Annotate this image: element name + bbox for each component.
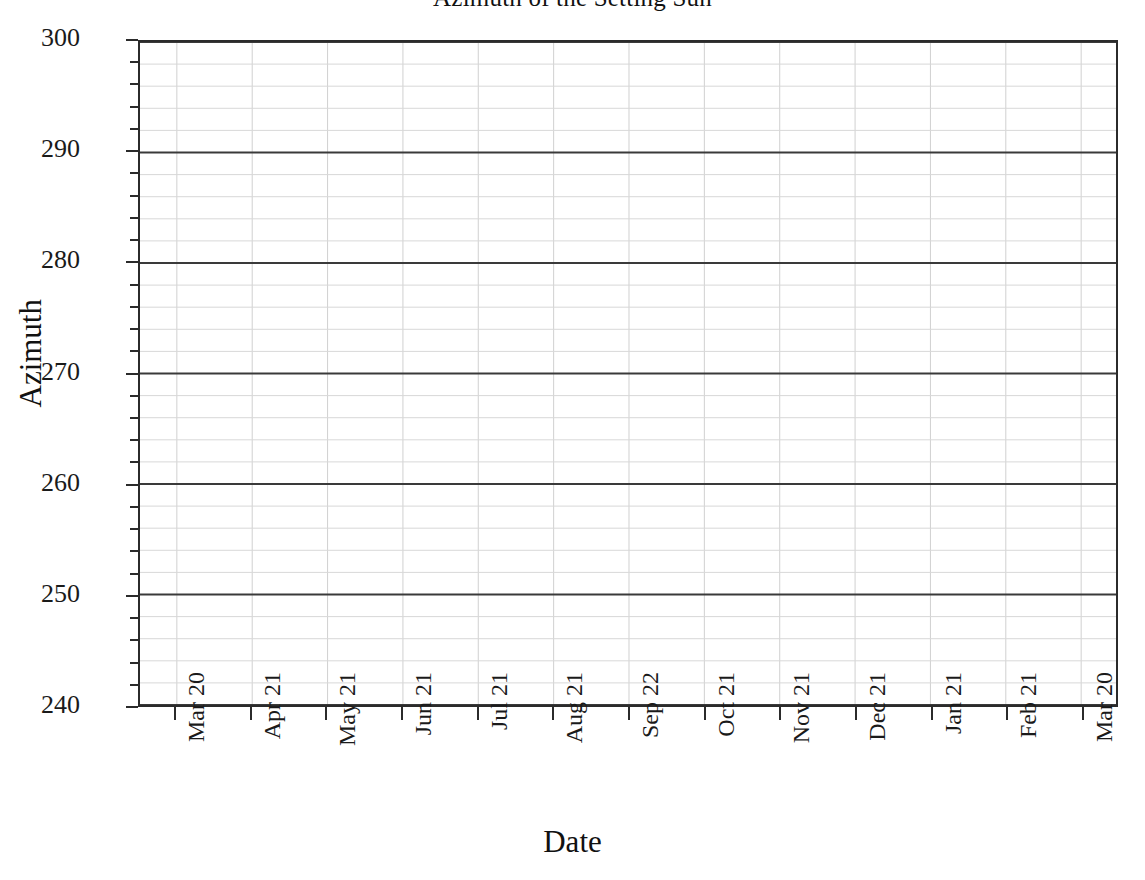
y-axis-major-tick	[126, 595, 138, 597]
x-axis-tick	[779, 707, 781, 720]
x-axis-tick-label: Mar 20	[184, 672, 208, 802]
y-axis-tick-label: 290	[0, 136, 80, 162]
x-axis-tick	[174, 707, 176, 720]
y-axis-major-tick	[126, 261, 138, 263]
y-axis-minor-tick	[130, 328, 138, 330]
y-axis-minor-tick	[130, 506, 138, 508]
x-axis-tick-label: Aug 21	[562, 672, 586, 802]
x-axis-tick-label: Apr 21	[260, 672, 284, 802]
y-axis-tick-label: 280	[0, 247, 80, 273]
y-axis-title: Azimuth	[13, 299, 49, 408]
x-axis-tick-label: May 21	[335, 672, 359, 802]
x-axis-tick	[1082, 707, 1084, 720]
gridlines	[140, 42, 1116, 705]
y-axis-major-tick	[126, 150, 138, 152]
y-axis-tick-label: 240	[0, 692, 80, 718]
y-axis-minor-tick	[130, 217, 138, 219]
y-axis-tick-label: 300	[0, 25, 80, 51]
chart-title: Azimuth of the Setting Sun	[0, 0, 1145, 12]
x-axis-tick	[477, 707, 479, 720]
y-axis-minor-tick	[130, 106, 138, 108]
x-axis-title: Date	[0, 824, 1145, 860]
plot-area	[138, 40, 1118, 707]
y-axis-minor-tick	[130, 83, 138, 85]
x-axis-tick	[552, 707, 554, 720]
y-axis-minor-tick	[130, 662, 138, 664]
y-axis-minor-tick	[130, 239, 138, 241]
y-axis-minor-tick	[130, 461, 138, 463]
y-axis-tick-label: 260	[0, 470, 80, 496]
x-axis-tick-label: Dec 21	[865, 672, 889, 802]
x-axis-tick-label: Oct 21	[714, 672, 738, 802]
y-axis-minor-tick	[130, 684, 138, 686]
y-axis-major-tick	[126, 484, 138, 486]
chart-figure: Azimuth of the Setting Sun 3002902802702…	[0, 0, 1145, 880]
y-axis-minor-tick	[130, 439, 138, 441]
x-axis-tick	[250, 707, 252, 720]
y-axis-minor-tick	[130, 573, 138, 575]
y-axis-minor-tick	[130, 284, 138, 286]
y-axis-minor-tick	[130, 639, 138, 641]
x-axis-tick	[401, 707, 403, 720]
y-axis-minor-tick	[130, 306, 138, 308]
x-axis-tick	[704, 707, 706, 720]
x-axis-tick-label: Jun 21	[411, 672, 435, 802]
y-axis-minor-tick	[130, 550, 138, 552]
x-axis-tick-label: Mar 20	[1092, 672, 1116, 802]
y-axis-minor-tick	[130, 350, 138, 352]
x-axis-tick-label: Jul 21	[487, 672, 511, 802]
y-axis-minor-tick	[130, 128, 138, 130]
x-axis-tick-label: Sep 22	[638, 672, 662, 802]
y-axis-minor-tick	[130, 528, 138, 530]
y-axis-minor-tick	[130, 617, 138, 619]
y-axis-minor-tick	[130, 61, 138, 63]
y-axis-minor-tick	[130, 417, 138, 419]
x-axis-tick-label: Feb 21	[1016, 672, 1040, 802]
x-axis-tick	[1006, 707, 1008, 720]
y-axis-minor-tick	[130, 172, 138, 174]
y-axis-major-tick	[126, 373, 138, 375]
x-axis-tick	[855, 707, 857, 720]
y-axis-major-tick	[126, 706, 138, 708]
y-axis-tick-label: 250	[0, 581, 80, 607]
x-axis-tick	[931, 707, 933, 720]
y-axis-major-tick	[126, 39, 138, 41]
y-axis-minor-tick	[130, 195, 138, 197]
x-axis-tick-label: Nov 21	[789, 672, 813, 802]
y-axis-minor-tick	[130, 395, 138, 397]
x-axis-tick	[325, 707, 327, 720]
x-axis-tick-label: Jan 21	[941, 672, 965, 802]
x-axis-tick	[628, 707, 630, 720]
